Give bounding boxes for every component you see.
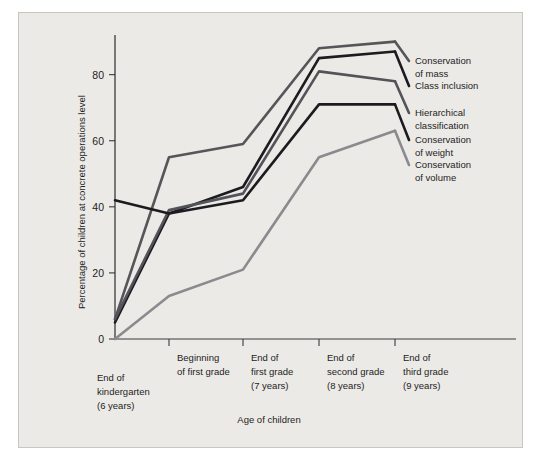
x-tick-label: Beginningof first grade [177, 352, 230, 377]
x-tick-label: End ofkindergarten(6 years) [97, 372, 150, 411]
y-axis-ticks [109, 75, 115, 339]
y-axis-tick-labels: 020406080 [92, 69, 104, 345]
legend-label-3: Conservationof weight [415, 134, 471, 158]
y-tick-label: 0 [98, 333, 104, 345]
x-axis-ticks [169, 339, 395, 346]
line-chart: 020406080 End ofkindergarten(6 years)Beg… [19, 13, 524, 449]
series-line-0 [115, 42, 395, 320]
y-tick-label: 60 [92, 135, 104, 147]
figure-panel: 020406080 End ofkindergarten(6 years)Beg… [18, 12, 523, 448]
legend-label-4: Conservationof volume [415, 159, 471, 183]
x-tick-label: End ofsecond grade(8 years) [327, 352, 385, 391]
x-axis-title: Age of children [237, 414, 300, 425]
x-tick-label: End offirst grade(7 years) [251, 352, 293, 391]
legend: Conservationof massClass inclusionHierar… [395, 42, 478, 183]
x-axis-tick-labels: End ofkindergarten(6 years)Beginningof f… [97, 352, 448, 411]
y-tick-label: 40 [92, 201, 104, 213]
y-axis-title: Percentage of children at concrete opera… [76, 95, 87, 309]
data-series-lines [115, 42, 395, 339]
legend-label-2: Hierarchicalclassification [415, 107, 469, 131]
legend-label-0: Conservationof mass [415, 55, 471, 79]
y-tick-label: 80 [92, 69, 104, 81]
y-tick-label: 20 [92, 267, 104, 279]
x-tick-label: End ofthird grade(9 years) [403, 352, 448, 391]
legend-label-1: Class inclusion [415, 80, 478, 91]
